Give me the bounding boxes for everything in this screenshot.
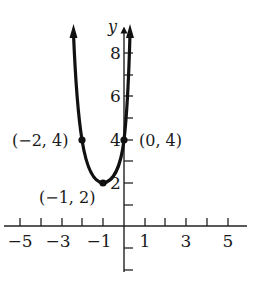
curve (74, 34, 131, 183)
x-tick-label-1: 1 (140, 231, 151, 251)
x-tick-label-3: 3 (181, 231, 192, 251)
point-label-right: (0, 4) (139, 131, 182, 150)
point-right (120, 136, 127, 143)
y-tick-label-4: 4 (110, 130, 121, 150)
x-tick-label-5: 5 (223, 231, 234, 251)
x-tick-label-neg1: −1 (86, 231, 111, 251)
curve-arrow-right-icon (126, 24, 134, 38)
y-axis-label: y (107, 17, 118, 36)
point-min (99, 179, 106, 186)
chart: y 8 6 4 2 −5 −3 −1 1 3 5 (−2, 4) (0, 4) … (0, 0, 259, 287)
y-tick-label-6: 6 (110, 86, 121, 106)
y-tick-label-8: 8 (110, 43, 121, 63)
y-tick-label-2: 2 (110, 173, 121, 193)
x-tick-label-neg5: −5 (7, 231, 32, 251)
point-label-left: (−2, 4) (12, 131, 68, 150)
x-tick-label-neg3: −3 (45, 231, 70, 251)
point-label-min: (−1, 2) (39, 188, 95, 207)
curve-arrow-left-icon (70, 24, 78, 38)
point-left (78, 136, 85, 143)
